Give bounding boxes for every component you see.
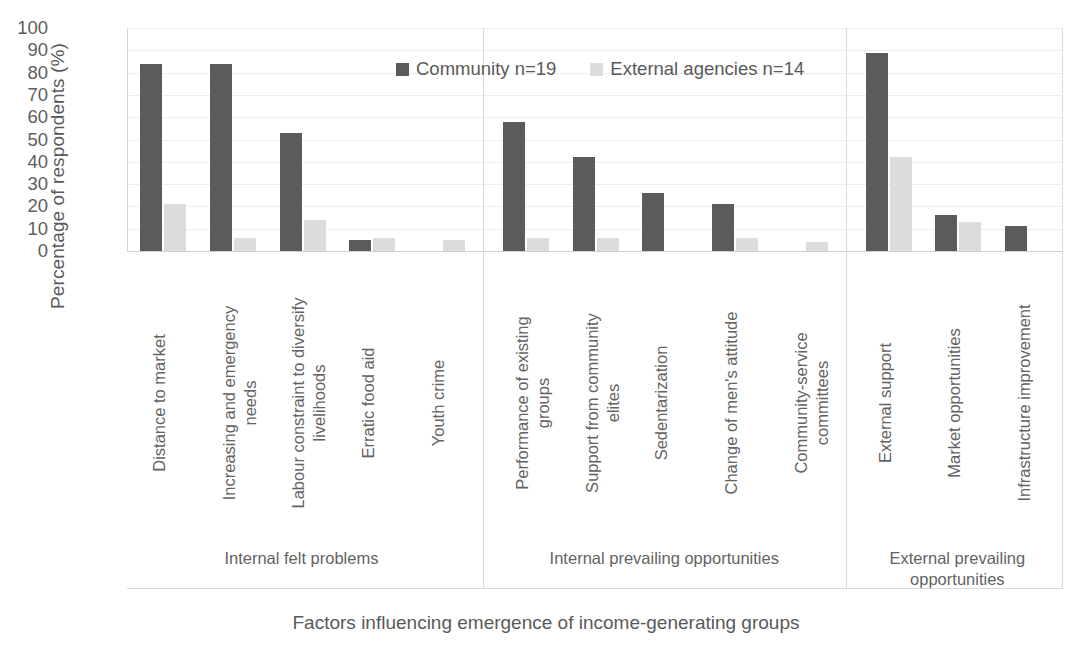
bar-external-agencies[interactable] — [959, 222, 981, 251]
x-axis-label: Community-service committees — [791, 258, 817, 548]
bar-group — [993, 28, 1063, 251]
plot-bottom-border — [127, 588, 1063, 589]
bar-community[interactable] — [935, 215, 957, 251]
bar-community[interactable] — [642, 193, 664, 251]
y-axis-title: Percentage of respondents (%) — [47, 26, 69, 326]
y-axis-tick-40: 40 — [8, 153, 48, 172]
legend-entry-external-agencies: External agencies n=14 — [590, 58, 804, 80]
bar-external-agencies[interactable] — [164, 204, 186, 251]
bar-community[interactable] — [573, 157, 595, 251]
bar-external-agencies[interactable] — [373, 238, 395, 251]
group-label: Internal felt problems — [127, 548, 476, 569]
x-axis-label: Sedentarization — [651, 258, 677, 548]
bar-group — [198, 28, 268, 251]
bar-group — [923, 28, 993, 251]
bar-community[interactable] — [140, 64, 162, 251]
bar-external-agencies[interactable] — [597, 238, 619, 251]
x-axis-label: Labour constraint to diversify livelihoo… — [288, 258, 314, 548]
y-axis-tick-10: 10 — [8, 220, 48, 239]
bar-external-agencies[interactable] — [890, 157, 912, 251]
x-axis-title: Factors influencing emergence of income-… — [0, 612, 1092, 634]
group-separator — [483, 28, 484, 588]
chart-legend: Community n=19 External agencies n=14 — [396, 58, 804, 80]
bar-external-agencies[interactable] — [234, 238, 256, 251]
bar-community[interactable] — [866, 53, 888, 251]
y-axis-tick-60: 60 — [8, 108, 48, 127]
x-axis-label: Youth crime — [428, 258, 454, 548]
bar-external-agencies[interactable] — [304, 220, 326, 251]
x-axis-label: Distance to market — [149, 258, 175, 548]
y-axis-tick-0: 0 — [8, 242, 48, 261]
y-axis-tick-90: 90 — [8, 41, 48, 60]
bar-group — [128, 28, 198, 251]
bar-community[interactable] — [712, 204, 734, 251]
x-axis-label: Erratic food aid — [358, 258, 384, 548]
y-axis-tick-80: 80 — [8, 64, 48, 83]
bar-external-agencies[interactable] — [806, 242, 828, 251]
plot-right-border — [1062, 28, 1063, 588]
bar-community[interactable] — [503, 122, 525, 251]
y-axis-tick-100: 100 — [8, 19, 48, 38]
x-axis-label: Support from community elites — [582, 258, 608, 548]
x-axis-label: Market opportunities — [944, 258, 970, 548]
y-axis-tick-20: 20 — [8, 197, 48, 216]
x-axis-label: Increasing and emergency needs — [219, 258, 245, 548]
chart-figure: Percentage of respondents (%) 1009080706… — [0, 0, 1092, 658]
bar-community[interactable] — [349, 240, 371, 251]
legend-entry-community: Community n=19 — [396, 58, 556, 80]
y-axis-tick-30: 30 — [8, 175, 48, 194]
y-axis-tick-70: 70 — [8, 86, 48, 105]
bar-external-agencies[interactable] — [527, 238, 549, 251]
group-label: Internal prevailing opportunities — [490, 548, 839, 569]
bar-external-agencies[interactable] — [736, 238, 758, 251]
x-axis-label: Performance of existing groups — [512, 258, 538, 548]
x-axis-label: External support — [875, 258, 901, 548]
x-axis-label: Change of men's attitude — [721, 258, 747, 548]
legend-swatch-external-agencies — [590, 63, 603, 76]
group-separator — [846, 28, 847, 588]
legend-swatch-community — [396, 63, 409, 76]
bar-group — [854, 28, 924, 251]
legend-label-community: Community n=19 — [416, 58, 556, 80]
y-axis-tick-50: 50 — [8, 131, 48, 150]
group-label: External prevailing opportunities — [853, 548, 1062, 591]
bar-community[interactable] — [1005, 226, 1027, 251]
bar-community[interactable] — [280, 133, 302, 251]
x-axis-label: Infrastructure improvement — [1014, 258, 1040, 548]
legend-label-external-agencies: External agencies n=14 — [610, 58, 804, 80]
bar-community[interactable] — [210, 64, 232, 251]
bar-group — [268, 28, 338, 251]
bar-external-agencies[interactable] — [443, 240, 465, 251]
